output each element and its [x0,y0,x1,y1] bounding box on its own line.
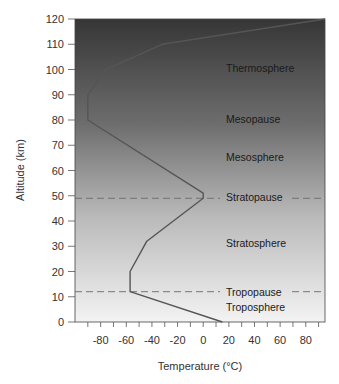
x-tick-label: -80 [93,334,109,346]
y-tick-label: 10 [52,291,64,303]
y-tick-label: 100 [46,64,64,76]
label-troposphere: Troposphere [226,301,285,313]
label-tropopause: Tropopause [226,286,282,298]
y-tick-label: 80 [52,114,64,126]
x-tick-label: -20 [170,334,186,346]
y-tick-label: 90 [52,89,64,101]
label-mesosphere: Mesosphere [226,151,284,163]
y-axis-title: Altitude (km) [14,139,26,201]
y-tick-label: 110 [46,38,64,50]
x-tick-label: -40 [144,334,160,346]
y-tick-label: 30 [52,240,64,252]
label-stratopause: Stratopause [226,191,283,203]
x-tick-label: 0 [200,334,206,346]
y-tick-label: 60 [52,165,64,177]
label-mesopause: Mesopause [226,113,280,125]
y-tick-label: 20 [52,266,64,278]
y-axis: 0102030405060708090100110120 [46,13,75,328]
x-axis: -80-60-40-20020406080 [88,322,319,346]
y-tick-label: 70 [52,139,64,151]
y-tick-label: 40 [52,215,64,227]
y-tick-label: 0 [58,316,64,328]
x-tick-label: 40 [248,334,260,346]
atmosphere-temperature-chart: 0102030405060708090100110120 -80-60-40-2… [0,0,339,384]
label-stratosphere: Stratosphere [226,237,286,249]
y-tick-label: 50 [52,190,64,202]
x-tick-label: 20 [223,334,235,346]
x-tick-label: -60 [118,334,134,346]
y-tick-label: 120 [46,13,64,25]
label-thermosphere: Thermosphere [226,62,294,74]
x-tick-label: 80 [300,334,312,346]
x-axis-title: Temperature (°C) [158,360,242,372]
x-tick-label: 60 [274,334,286,346]
